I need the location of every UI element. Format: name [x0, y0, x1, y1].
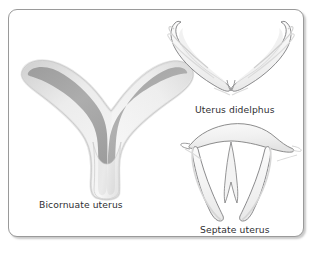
- septate-right-tube: [292, 146, 301, 151]
- bicornuate-uterus-illustration: [22, 60, 193, 199]
- figure-root: Bicornuate uterus Uterus didelphus Septa…: [0, 0, 317, 255]
- label-uterus-didelphus: Uterus didelphus: [195, 105, 275, 114]
- septate-right-wisp: [277, 155, 297, 161]
- septate-fundus: [189, 124, 294, 153]
- label-septate-uterus: Septate uterus: [200, 225, 270, 234]
- figure-frame: Bicornuate uterus Uterus didelphus Septa…: [8, 9, 304, 237]
- septate-uterus-illustration: [181, 124, 301, 221]
- label-bicornuate-uterus: Bicornuate uterus: [39, 200, 123, 209]
- septate-left-tube: [181, 143, 190, 149]
- septate-septum: [224, 142, 238, 203]
